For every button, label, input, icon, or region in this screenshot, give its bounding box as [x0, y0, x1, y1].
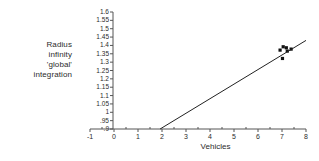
- data-series: [160, 40, 306, 129]
- data-point-marker: [278, 49, 281, 52]
- trend-line: [160, 40, 306, 129]
- plot-area: [0, 0, 319, 161]
- data-point-marker: [281, 57, 284, 60]
- data-point-marker: [285, 46, 288, 49]
- axes: [90, 12, 306, 132]
- chart-container: Radius infinity 'global' integration Veh…: [0, 0, 319, 161]
- data-point-marker: [282, 45, 285, 48]
